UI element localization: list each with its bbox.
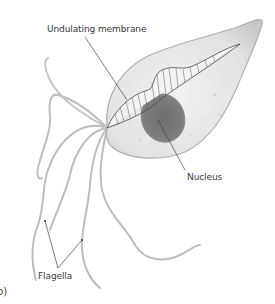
- flagellum-6: [45, 58, 107, 128]
- leader-membrane: [85, 37, 127, 100]
- panel-label: b): [0, 286, 7, 297]
- protozoan-diagram: [0, 0, 275, 304]
- label-nucleus: Nucleus: [187, 172, 222, 182]
- label-flagella: Flagella: [38, 271, 72, 281]
- cell-body: [106, 20, 262, 159]
- label-undulating-membrane: Undulating membrane: [47, 24, 146, 34]
